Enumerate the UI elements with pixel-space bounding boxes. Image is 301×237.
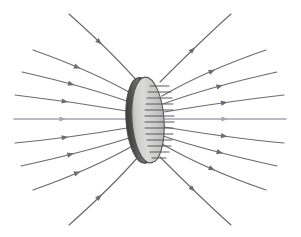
field-diagram-canvas xyxy=(0,0,301,237)
field-line-diagram xyxy=(0,0,301,237)
